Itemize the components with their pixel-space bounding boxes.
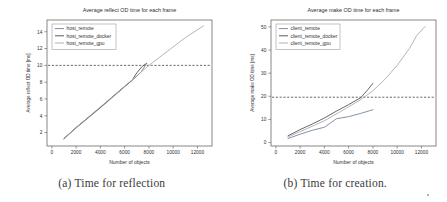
subfigure-b-caption: (b) Time for creation. <box>224 177 447 189</box>
make-chart-svg: Average make OD time for each frame02000… <box>224 0 447 170</box>
x-tick-label: 8000 <box>144 150 155 155</box>
y-tick-label: 50 <box>261 25 267 30</box>
x-tick-label: 0 <box>51 150 54 155</box>
x-tick-label: 0 <box>274 150 277 155</box>
y-tick-label: 0 <box>263 140 266 145</box>
legend-label: client_remote_docker <box>290 34 337 39</box>
subfigure-b: Average make OD time for each frame02000… <box>224 0 447 202</box>
x-axis-label: Number of objects <box>333 159 374 165</box>
chart-title: Average reflect OD time for each frame <box>83 7 177 13</box>
y-tick-label: 10 <box>37 63 43 68</box>
x-tick-label: 2000 <box>71 150 82 155</box>
reflect-chart-svg: Average reflect OD time for each frame02… <box>0 0 224 170</box>
legend-label: host_remote_docker <box>67 34 112 39</box>
x-tick-label: 10000 <box>167 150 181 155</box>
subfigure-a-caption: (a) Time for reflection <box>0 177 224 189</box>
scan-artifact-dot <box>427 194 429 196</box>
y-tick-label: 20 <box>261 94 267 99</box>
y-tick-label: 12 <box>37 46 43 51</box>
chart-reflect: Average reflect OD time for each frame02… <box>0 0 224 170</box>
y-tick-label: 4 <box>40 114 43 119</box>
legend-label: client_remote_gpu <box>290 41 331 46</box>
x-tick-label: 10000 <box>390 150 404 155</box>
series-line <box>287 83 372 135</box>
y-axis-label: Average reflect OD time [ms] <box>26 54 31 113</box>
y-tick-label: 30 <box>261 71 267 76</box>
figure-row: Average reflect OD time for each frame02… <box>0 0 447 202</box>
y-tick-label: 8 <box>40 80 43 85</box>
y-tick-label: 40 <box>261 48 267 53</box>
series-line <box>287 110 372 139</box>
x-tick-label: 4000 <box>319 150 330 155</box>
x-tick-label: 6000 <box>119 150 130 155</box>
x-tick-label: 6000 <box>343 150 354 155</box>
y-tick-label: 14 <box>37 30 43 35</box>
x-tick-label: 2000 <box>294 150 305 155</box>
y-axis-label: Average make OD time [ms] <box>250 54 255 112</box>
chart-title: Average make OD time for each frame <box>307 7 399 13</box>
chart-make: Average make OD time for each frame02000… <box>224 0 447 170</box>
legend-label: client_remote <box>290 26 320 31</box>
x-tick-label: 4000 <box>95 150 106 155</box>
legend-label: host_remote <box>67 26 94 31</box>
subfigure-a: Average reflect OD time for each frame02… <box>0 0 224 202</box>
y-tick-label: 6 <box>40 97 43 102</box>
x-tick-label: 8000 <box>367 150 378 155</box>
y-tick-label: 2 <box>40 130 43 135</box>
x-axis-label: Number of objects <box>109 159 150 165</box>
x-tick-label: 12000 <box>191 150 205 155</box>
x-tick-label: 12000 <box>414 150 428 155</box>
y-tick-label: 10 <box>261 117 267 122</box>
legend-label: host_remote_gpu <box>67 41 105 46</box>
